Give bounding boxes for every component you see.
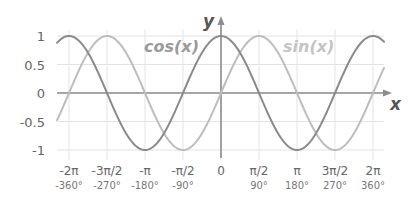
y-tick-label: 0 xyxy=(37,86,45,101)
x-tick-label-rad: π xyxy=(293,164,300,178)
y-axis-label: y xyxy=(203,11,215,31)
y-tick-labels: 10.50-0.5-1 xyxy=(20,29,45,158)
x-tick-labels: -2π-360°-3π/2-270°-π-180°-π/2-90°0π/290°… xyxy=(55,164,385,191)
y-axis-arrow-icon xyxy=(218,16,225,25)
x-tick-label-deg: 270° xyxy=(323,180,347,191)
x-tick-label-rad: -π/2 xyxy=(171,164,194,178)
x-tick-label-deg: -180° xyxy=(131,180,159,191)
x-tick-label-rad: -3π/2 xyxy=(92,164,123,178)
trig-chart: 10.50-0.5-1 -2π-360°-3π/2-270°-π-180°-π/… xyxy=(0,0,415,199)
x-tick-label-deg: -360° xyxy=(55,180,83,191)
cos-label: cos(x) xyxy=(144,37,199,56)
x-tick-label-deg: -270° xyxy=(93,180,121,191)
y-tick-label: -0.5 xyxy=(20,115,45,130)
x-tick-label-deg: 90° xyxy=(250,180,268,191)
x-tick-label-rad: -π xyxy=(139,164,151,178)
x-tick-label-rad: 3π/2 xyxy=(322,164,349,178)
y-tick-label: 1 xyxy=(37,29,45,44)
x-tick-label-deg: -90° xyxy=(172,180,193,191)
x-tick-label-rad: 2π xyxy=(366,164,381,178)
x-tick-label-rad: -2π xyxy=(59,164,78,178)
sin-label: sin(x) xyxy=(283,37,334,56)
x-tick-label-rad: 0 xyxy=(217,164,225,178)
x-axis-label: x xyxy=(389,94,402,114)
x-tick-label-deg: 360° xyxy=(361,180,385,191)
y-tick-label: 0.5 xyxy=(24,58,45,73)
y-tick-label: -1 xyxy=(32,143,45,158)
x-tick-label-deg: 180° xyxy=(285,180,309,191)
x-tick-label-rad: π/2 xyxy=(250,164,269,178)
